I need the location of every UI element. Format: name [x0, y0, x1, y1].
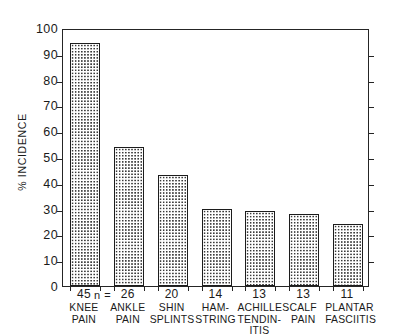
sample-size-value: 13: [281, 289, 325, 301]
category-name: CALF PAIN: [281, 302, 325, 325]
y-axis-tick-label: 10: [16, 255, 58, 268]
y-axis-tick-mark-right: [368, 262, 374, 263]
y-axis-tick-mark-right: [368, 185, 374, 186]
x-axis-category: 45KNEE PAIN: [62, 289, 106, 325]
y-axis-tick-mark-right: [368, 211, 374, 212]
bar: [158, 175, 188, 286]
x-axis-category: 26ANKLE PAIN: [106, 289, 150, 325]
y-axis-tick-mark-right: [368, 107, 374, 108]
x-axis-category-labels: n = 45KNEE PAIN26ANKLE PAIN20SHIN SPLINT…: [62, 289, 369, 335]
y-axis-tick-label: 0: [16, 281, 58, 294]
y-axis-tick-mark-left: [57, 262, 63, 263]
y-axis-tick-label: 70: [16, 100, 58, 113]
category-name: KNEE PAIN: [62, 302, 106, 325]
y-axis-tick-mark-left: [57, 236, 63, 237]
category-name: ACHILLES TENDIN- ITIS: [237, 302, 281, 335]
x-axis-category: 13ACHILLES TENDIN- ITIS: [237, 289, 281, 335]
bar: [114, 147, 144, 286]
y-axis-tick-label: 20: [16, 229, 58, 242]
x-axis-category: 20SHIN SPLINTS: [150, 289, 194, 325]
y-axis-tick-mark-left: [57, 133, 63, 134]
bar: [245, 211, 275, 286]
y-axis-tick-mark-left: [57, 56, 63, 57]
y-axis-tick-label: 30: [16, 203, 58, 216]
y-axis-tick-mark-right: [368, 82, 374, 83]
sample-size-value: 13: [237, 289, 281, 301]
category-name: PLANTAR FASCIITIS: [325, 302, 369, 325]
bar: [333, 224, 363, 286]
y-axis-tick-mark-left: [57, 82, 63, 83]
category-name: ANKLE PAIN: [106, 302, 150, 325]
sample-size-value: 26: [106, 289, 150, 301]
y-axis-tick-label: 40: [16, 178, 58, 191]
y-axis-tick-label: 80: [16, 74, 58, 87]
y-axis-tick-label: 90: [16, 49, 58, 62]
bar: [70, 43, 100, 286]
category-name: HAM- STRING: [194, 302, 238, 325]
y-axis-tick-label: 50: [16, 152, 58, 165]
y-axis-tick-mark-left: [57, 107, 63, 108]
bar-chart: % INCIDENCE 0102030405060708090100 n = 4…: [0, 0, 407, 335]
y-axis-tick-mark-right: [368, 56, 374, 57]
y-axis-tick-mark-right: [368, 133, 374, 134]
y-axis-tick-mark-left: [57, 211, 63, 212]
y-axis-tick-mark-left: [57, 159, 63, 160]
sample-size-value: 45: [62, 289, 106, 301]
category-name: SHIN SPLINTS: [150, 302, 194, 325]
x-axis-category: 11PLANTAR FASCIITIS: [325, 289, 369, 325]
plot-area: [62, 29, 369, 287]
bar: [202, 209, 232, 286]
y-axis-tick-label: 100: [16, 23, 58, 36]
x-axis-category: 14HAM- STRING: [194, 289, 238, 325]
bar: [289, 214, 319, 286]
sample-size-value: 14: [194, 289, 238, 301]
sample-size-value: 20: [150, 289, 194, 301]
y-axis-tick-mark-left: [57, 185, 63, 186]
y-axis-tick-label: 60: [16, 126, 58, 139]
y-axis-tick-mark-right: [368, 236, 374, 237]
y-axis-tick-labels: 0102030405060708090100: [10, 0, 58, 335]
x-axis-category: 13CALF PAIN: [281, 289, 325, 325]
y-axis-tick-mark-right: [368, 159, 374, 160]
sample-size-value: 11: [325, 289, 369, 301]
